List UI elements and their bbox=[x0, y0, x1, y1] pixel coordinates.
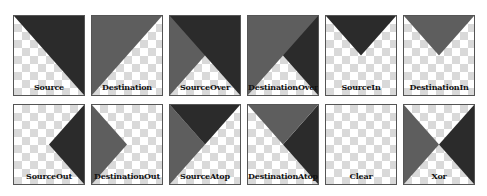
mode-tile-clear: Clear bbox=[325, 104, 397, 185]
mode-tile-source-in: SourceIn bbox=[325, 15, 397, 96]
mode-label: Xor bbox=[404, 171, 474, 181]
mode-tile-destination-atop: DestinationAtop bbox=[247, 104, 319, 185]
mode-label: DestinationAtop bbox=[248, 171, 318, 181]
mode-tile-xor: Xor bbox=[403, 104, 475, 185]
mode-label: DestinationOver bbox=[248, 82, 318, 92]
source-intersection bbox=[326, 16, 396, 56]
mode-label: DestinationIn bbox=[404, 82, 474, 92]
mode-tile-source-over: SourceOver bbox=[169, 15, 241, 96]
mode-tile-destination: Destination bbox=[91, 15, 163, 96]
mode-label: Source bbox=[14, 82, 84, 92]
mode-label: SourceAtop bbox=[170, 171, 240, 181]
mode-tile-destination-over: DestinationOver bbox=[247, 15, 319, 96]
mode-tile-destination-in: DestinationIn bbox=[403, 15, 475, 96]
mode-tile-source: Source bbox=[13, 15, 85, 96]
mode-label: SourceOver bbox=[170, 82, 240, 92]
mode-label: Destination bbox=[92, 82, 162, 92]
mode-tile-source-out: SourceOut bbox=[13, 104, 85, 185]
mode-label: DestinationOut bbox=[92, 171, 162, 181]
mode-label: Clear bbox=[326, 171, 396, 181]
destination-intersection bbox=[404, 16, 474, 56]
mode-label: SourceIn bbox=[326, 82, 396, 92]
mode-tile-destination-out: DestinationOut bbox=[91, 104, 163, 185]
mode-label: SourceOut bbox=[14, 171, 84, 181]
mode-tile-source-atop: SourceAtop bbox=[169, 104, 241, 185]
